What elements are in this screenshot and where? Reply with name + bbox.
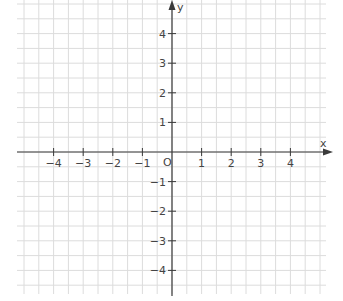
origin-label: O xyxy=(163,156,172,169)
y-axis-label: y xyxy=(177,1,184,14)
axes xyxy=(17,0,333,296)
x-tick-label: −4 xyxy=(45,157,61,170)
x-tick-label: 2 xyxy=(228,157,235,170)
y-tick-label: 4 xyxy=(159,28,166,41)
y-tick-label: −3 xyxy=(150,235,166,248)
y-tick-label: 1 xyxy=(159,116,166,129)
y-tick-label: −1 xyxy=(150,176,166,189)
y-tick-label: −2 xyxy=(150,205,166,218)
x-tick-label: 1 xyxy=(198,157,205,170)
coordinate-plane: −4−3−2−112344321−1−2−3−4 x y O xyxy=(0,0,343,301)
x-tick-label: 3 xyxy=(257,157,264,170)
x-tick-label: −3 xyxy=(75,157,91,170)
x-tick-label: −1 xyxy=(134,157,150,170)
y-tick-label: −4 xyxy=(150,264,166,277)
x-axis-label: x xyxy=(320,137,327,150)
y-tick-label: 2 xyxy=(159,87,166,100)
y-tick-label: 3 xyxy=(159,57,166,70)
y-axis-arrow-icon xyxy=(169,0,176,10)
x-tick-label: −2 xyxy=(105,157,121,170)
x-tick-label: 4 xyxy=(287,157,294,170)
